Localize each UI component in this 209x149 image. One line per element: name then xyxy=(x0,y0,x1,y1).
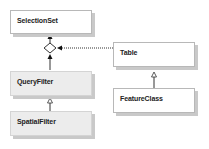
class-label: FeatureClass xyxy=(120,95,163,102)
class-label: QueryFilter xyxy=(17,78,53,85)
class-table[interactable]: Table xyxy=(113,42,195,67)
class-selectionset[interactable]: SelectionSet xyxy=(10,10,92,34)
class-queryfilter[interactable]: QueryFilter xyxy=(10,71,92,96)
class-spatialfilter[interactable]: SpatialFilter xyxy=(10,111,92,136)
arrowhead-icon xyxy=(48,54,53,59)
arrowhead-icon xyxy=(48,34,53,39)
inheritance-triangle-icon xyxy=(48,98,53,103)
class-label: Table xyxy=(120,49,137,56)
class-label: SpatialFilter xyxy=(17,118,56,125)
class-label: SelectionSet xyxy=(17,17,58,24)
class-featureclass[interactable]: FeatureClass xyxy=(113,88,195,113)
inheritance-triangle-icon xyxy=(152,72,157,77)
aggregation-diamond-icon xyxy=(44,43,56,53)
arrowhead-icon xyxy=(57,46,62,51)
